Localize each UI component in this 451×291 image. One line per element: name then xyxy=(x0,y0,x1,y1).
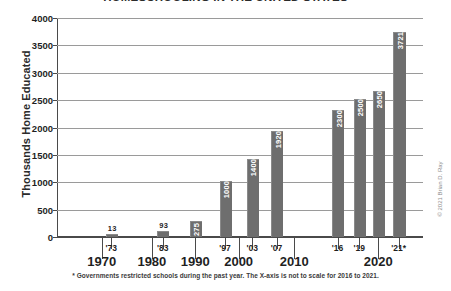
gridline xyxy=(57,73,423,74)
gridline xyxy=(57,182,423,183)
bar: 275 xyxy=(190,221,202,237)
gridline xyxy=(57,210,423,211)
y-tick-label: 1000 xyxy=(7,177,53,188)
y-tick-mark xyxy=(53,210,57,211)
y-tick-label: 2000 xyxy=(7,122,53,133)
y-tick-mark xyxy=(53,45,57,46)
bar-value-label: 1000 xyxy=(222,181,231,199)
x-axis-decade-label: 1980 xyxy=(137,254,166,269)
bar-value-label: 2300 xyxy=(334,110,343,128)
y-tick-mark xyxy=(53,128,57,129)
y-tick-mark xyxy=(53,18,57,19)
x-axis-year-label: '19 xyxy=(354,243,365,253)
homeschool-bar-chart: HOMESCHOOLING IN THE UNITED STATES Thous… xyxy=(0,0,451,291)
x-axis-decade-label: 1970 xyxy=(87,254,116,269)
bar-value-label: 2650 xyxy=(375,91,384,109)
x-axis-year-label: '07 xyxy=(271,243,282,253)
bar-value-label: 1920 xyxy=(273,131,282,149)
x-axis-year-label: '73 xyxy=(105,243,116,253)
bar: 1920 xyxy=(271,131,283,237)
bar: 2300 xyxy=(332,110,344,237)
bar: 2650 xyxy=(373,91,385,237)
bar: 1000 xyxy=(220,181,232,237)
y-tick-mark xyxy=(53,182,57,183)
copyright-notice: © 2021 Brian D. Ray xyxy=(437,150,443,228)
bar: 2500 xyxy=(354,99,366,237)
x-axis-year-label: '97 xyxy=(219,243,230,253)
y-tick-label: 2500 xyxy=(7,95,53,106)
y-tick-label: 0 xyxy=(7,232,53,243)
x-axis-decade-label: 2010 xyxy=(280,254,309,269)
y-tick-label: 3000 xyxy=(7,67,53,78)
bar-value-label: 93 xyxy=(159,221,168,230)
chart-title: HOMESCHOOLING IN THE UNITED STATES xyxy=(0,0,451,3)
bar: 1400 xyxy=(247,159,259,237)
y-tick-label: 500 xyxy=(7,204,53,215)
bar-value-label: 3721 xyxy=(396,32,405,50)
footnote: * Governments restricted schools during … xyxy=(0,272,451,279)
x-axis-year-label: '21* xyxy=(391,243,406,253)
y-tick-label: 1500 xyxy=(7,149,53,160)
gridline xyxy=(57,155,423,156)
x-axis-year-label: '03 xyxy=(246,243,257,253)
gridline xyxy=(57,100,423,101)
bar: 3721 xyxy=(393,32,406,237)
gridline xyxy=(57,128,423,129)
x-axis-decade-label: 2020 xyxy=(364,254,393,269)
bar-value-label: 13 xyxy=(108,224,117,233)
bar-value-label: 1400 xyxy=(249,159,258,177)
gridline xyxy=(57,45,423,46)
plot-area: 13932751000140019202300250026503721 xyxy=(57,18,423,237)
y-tick-mark xyxy=(53,73,57,74)
y-tick-mark xyxy=(53,237,57,238)
y-tick-mark xyxy=(53,100,57,101)
y-tick-mark xyxy=(53,155,57,156)
bar-value-label: 2500 xyxy=(356,99,365,117)
y-tick-label: 4000 xyxy=(7,13,53,24)
x-axis-decade-label: 1990 xyxy=(181,254,210,269)
bar-value-label: 275 xyxy=(192,223,201,236)
y-tick-label: 3500 xyxy=(7,40,53,51)
x-axis-decade-label: 2000 xyxy=(224,254,253,269)
x-axis-year-label: '16 xyxy=(332,243,343,253)
gridline xyxy=(57,18,423,19)
x-axis-year-label: '83 xyxy=(157,243,168,253)
